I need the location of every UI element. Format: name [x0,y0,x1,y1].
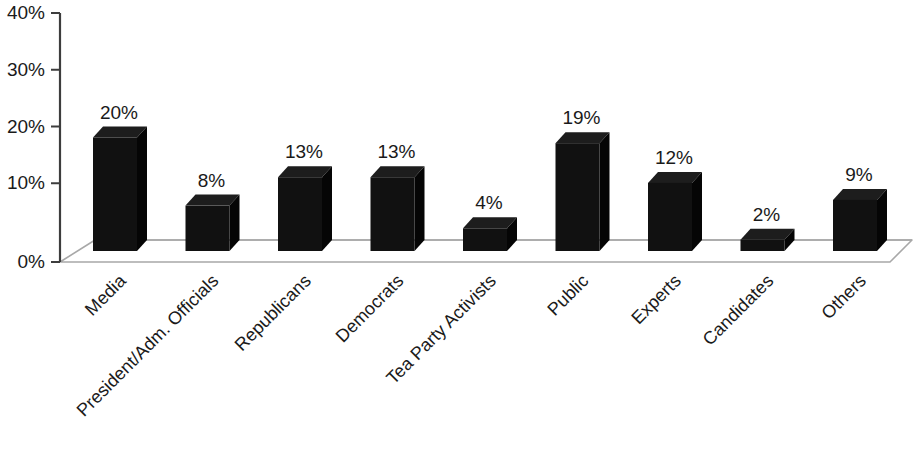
bar-value-label: 13% [285,141,323,162]
bar-front-face [371,177,415,251]
bar-1 [93,127,147,252]
bar-side-face [322,166,332,251]
bar-2 [186,195,240,251]
bar-side-face [600,132,610,251]
y-axis-tick-label: 20% [7,116,45,137]
bar-9 [833,189,887,251]
bar-3 [278,166,332,251]
bar-side-face [137,127,147,252]
y-axis-ticks: 0%10%20%30%40% [7,2,60,272]
bar-front-face [741,240,785,251]
bar-front-face [556,143,600,251]
bar-value-label: 2% [753,204,781,225]
bar-5 [463,217,517,251]
bar-value-label: 20% [100,102,138,123]
bar-side-face [415,166,425,251]
y-axis-tick-label: 0% [18,251,46,272]
category-label: Media [81,270,131,320]
bar-value-label: 9% [845,164,873,185]
category-label: Others [817,271,869,323]
category-label: Democrats [332,271,408,347]
bar-front-face [93,138,137,252]
chart-canvas: 0%10%20%30%40% 20%8%13%13%4%19%12%2%9% M… [0,0,920,450]
category-label: Public [544,271,593,320]
bar-7 [648,172,702,251]
bar-front-face [648,183,692,251]
bar-6 [556,132,610,251]
bar-value-label: 4% [475,192,503,213]
bar-front-face [278,177,322,251]
bar-chart: 0%10%20%30%40% 20%8%13%13%4%19%12%2%9% M… [0,0,920,450]
y-axis-tick-label: 10% [7,172,45,193]
bar-8 [741,229,795,251]
category-label: Experts [628,271,685,328]
category-label: Republicans [231,271,315,355]
bar-side-face [692,172,702,251]
y-axis-tick-label: 40% [7,2,45,23]
x-axis-category-labels: MediaPresident/Adm. OfficialsRepublicans… [73,270,870,420]
bar-front-face [186,206,230,251]
bar-value-label: 12% [655,147,693,168]
bar-front-face [833,200,877,251]
bar-front-face [463,228,507,251]
bar-value-label: 19% [562,107,600,128]
bar-value-label: 13% [377,141,415,162]
category-label: Candidates [699,271,778,350]
bar-4 [371,166,425,251]
y-axis-tick-label: 30% [7,59,45,80]
bar-value-label: 8% [198,170,226,191]
